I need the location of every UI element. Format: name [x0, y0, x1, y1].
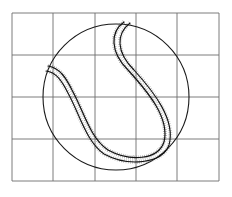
seam-inner-halo — [46, 23, 170, 162]
figure-canvas — [0, 0, 232, 197]
seam-inner-line — [46, 23, 170, 162]
seam-diagram — [0, 0, 232, 197]
